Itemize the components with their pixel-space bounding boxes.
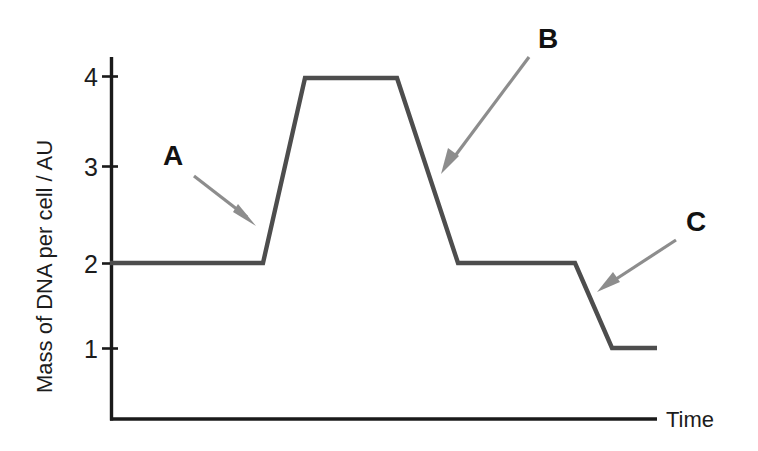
x-axis-title: Time bbox=[666, 407, 714, 432]
chart-background bbox=[0, 0, 758, 451]
dna-mass-line-chart: 4 3 2 1 Mass of DNA per cell / AU Time A… bbox=[0, 0, 758, 451]
chart-figure: 4 3 2 1 Mass of DNA per cell / AU Time A… bbox=[0, 0, 758, 451]
y-tick-label-3: 3 bbox=[84, 153, 98, 181]
y-tick-label-1: 1 bbox=[84, 335, 98, 363]
y-axis-title: Mass of DNA per cell / AU bbox=[32, 140, 57, 393]
annotation-label-a: A bbox=[163, 140, 183, 171]
y-tick-label-4: 4 bbox=[84, 63, 98, 91]
annotation-label-c: C bbox=[686, 206, 706, 237]
annotation-label-b: B bbox=[538, 23, 558, 54]
y-tick-label-2: 2 bbox=[84, 250, 98, 278]
